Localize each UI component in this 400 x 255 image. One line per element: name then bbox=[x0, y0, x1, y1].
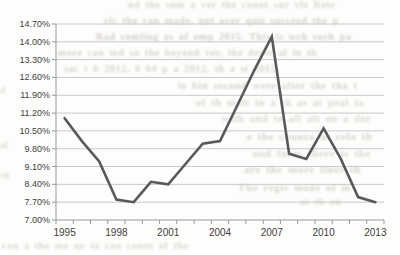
x-axis-label: 2013 bbox=[364, 227, 387, 238]
x-axis-label: 2004 bbox=[209, 227, 232, 238]
y-axis-label: 11.90% bbox=[20, 90, 50, 100]
y-axis-label: 14.00% bbox=[19, 37, 50, 47]
y-axis-label: 14.70% bbox=[19, 19, 50, 29]
data-series-line bbox=[65, 37, 376, 203]
y-axis-label: 11.20% bbox=[20, 108, 50, 118]
scanned-document-page: nd the sum a ver the count sur vle Reter… bbox=[0, 0, 400, 255]
y-axis-label: 13.30% bbox=[19, 55, 50, 65]
y-axis-label: 7.70% bbox=[24, 197, 50, 207]
y-axis-label: 12.60% bbox=[19, 72, 50, 82]
y-axis-label: 10.50% bbox=[19, 126, 50, 136]
x-axis-label: 1998 bbox=[105, 227, 128, 238]
x-axis-label: 2010 bbox=[312, 227, 335, 238]
y-axis-label: 9.10% bbox=[24, 162, 50, 172]
x-axis-label: 2001 bbox=[157, 227, 180, 238]
y-axis-label: 8.40% bbox=[24, 179, 50, 189]
y-axis-label: 7.00% bbox=[24, 215, 50, 225]
y-axis-label: 9.80% bbox=[24, 144, 50, 154]
x-axis-label: 2007 bbox=[261, 227, 284, 238]
x-axis-label: 1995 bbox=[54, 227, 77, 238]
line-chart: 14.70%14.00%13.30%12.60%11.90%11.20%10.5… bbox=[0, 0, 400, 255]
